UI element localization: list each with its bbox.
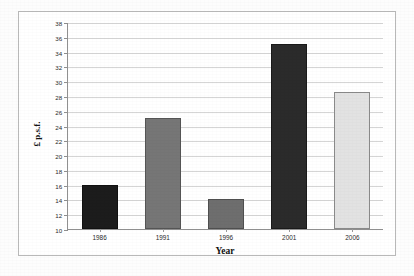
- x-axis-tick-label: 2006: [345, 234, 359, 241]
- gridline: [68, 67, 383, 68]
- x-axis-tick-label: 1986: [92, 234, 106, 241]
- gridline: [68, 38, 383, 39]
- y-axis-tick: [64, 127, 68, 128]
- y-axis-tick-label: 24: [55, 123, 62, 130]
- y-axis-tick-label: 26: [55, 108, 62, 115]
- y-axis-tick: [64, 23, 68, 24]
- y-axis-tick: [64, 171, 68, 172]
- y-axis-tick: [64, 200, 68, 201]
- x-axis-tick: [289, 229, 290, 232]
- y-axis-tick: [64, 230, 68, 231]
- plot-inner: 3836343230282624222018161412101986199119…: [68, 23, 383, 229]
- y-axis-tick-label: 14: [55, 197, 62, 204]
- chart-frame: £ p.s.f. 3836343230282624222018161412101…: [18, 11, 396, 256]
- scanned-page: £ p.s.f. 3836343230282624222018161412101…: [0, 0, 414, 276]
- x-axis-tick: [163, 229, 164, 232]
- y-axis-tick: [64, 53, 68, 54]
- bar-1986: [82, 185, 118, 229]
- y-axis-tick-label: 32: [55, 64, 62, 71]
- bar-1996: [208, 199, 244, 229]
- y-axis-tick: [64, 215, 68, 216]
- x-axis-tick: [352, 229, 353, 232]
- y-axis-tick-label: 12: [55, 212, 62, 219]
- bar-1991: [145, 118, 181, 229]
- y-axis-tick-label: 10: [55, 227, 62, 234]
- y-axis-tick-label: 30: [55, 79, 62, 86]
- y-axis-tick-label: 36: [55, 34, 62, 41]
- x-axis-tick: [226, 229, 227, 232]
- y-axis-tick: [64, 97, 68, 98]
- y-axis-tick: [64, 82, 68, 83]
- y-axis-tick: [64, 141, 68, 142]
- y-axis-tick-label: 18: [55, 167, 62, 174]
- x-axis-tick-label: 1991: [156, 234, 170, 241]
- y-axis-tick: [64, 156, 68, 157]
- y-axis-title: £ p.s.f.: [32, 121, 42, 146]
- y-axis-tick: [64, 67, 68, 68]
- y-axis-tick-label: 22: [55, 138, 62, 145]
- y-axis-tick-label: 28: [55, 93, 62, 100]
- gridline: [68, 23, 383, 24]
- gridline: [68, 82, 383, 83]
- y-axis-tick-label: 34: [55, 49, 62, 56]
- y-axis-tick: [64, 112, 68, 113]
- gridline: [68, 53, 383, 54]
- x-axis-tick: [100, 229, 101, 232]
- plot-area: 3836343230282624222018161412101986199119…: [67, 23, 383, 230]
- x-axis-tick-label: 2001: [282, 234, 296, 241]
- x-axis-title: Year: [67, 246, 383, 256]
- y-axis-tick: [64, 38, 68, 39]
- y-axis-tick-label: 20: [55, 153, 62, 160]
- y-axis-tick-label: 38: [55, 20, 62, 27]
- bar-2001: [271, 44, 307, 229]
- bar-2006: [334, 92, 370, 229]
- x-axis-tick-label: 1996: [219, 234, 233, 241]
- y-axis-tick: [64, 186, 68, 187]
- y-axis-tick-label: 16: [55, 182, 62, 189]
